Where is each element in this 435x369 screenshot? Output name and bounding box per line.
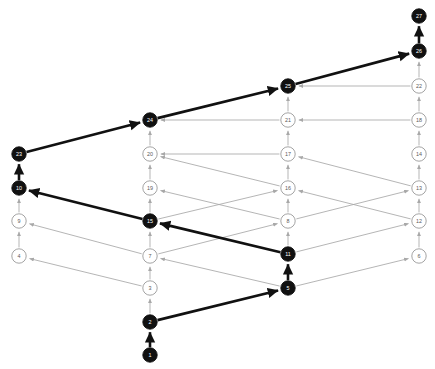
graph-node-3[interactable]: 3 xyxy=(143,281,157,295)
edge-13-to-17 xyxy=(298,157,410,186)
graph-node-12[interactable]: 12 xyxy=(412,214,426,228)
edge-2-to-5 xyxy=(158,290,279,320)
edge-5-to-6 xyxy=(296,259,408,286)
node-circle-7[interactable] xyxy=(143,249,157,263)
node-circle-17[interactable] xyxy=(281,147,295,161)
graph-node-22[interactable]: 22 xyxy=(412,79,426,93)
edge-7-to-9 xyxy=(29,224,141,254)
node-circle-15[interactable] xyxy=(143,214,157,228)
graph-node-19[interactable]: 19 xyxy=(143,181,157,195)
node-circle-8[interactable] xyxy=(281,214,295,228)
graph-node-26[interactable]: 26 xyxy=(412,44,426,58)
graph-node-9[interactable]: 9 xyxy=(12,214,26,228)
node-circle-20[interactable] xyxy=(143,147,157,161)
edge-5-to-7 xyxy=(161,258,280,286)
graph-node-5[interactable]: 5 xyxy=(281,281,295,295)
node-circle-10[interactable] xyxy=(12,181,26,195)
graph-svg: 1234567891011121314151617181920212223242… xyxy=(0,0,435,369)
edge-11-to-12 xyxy=(296,224,408,252)
graph-node-7[interactable]: 7 xyxy=(143,249,157,263)
node-circle-9[interactable] xyxy=(12,214,26,228)
node-circle-18[interactable] xyxy=(412,113,426,127)
node-circle-1[interactable] xyxy=(143,348,157,362)
node-layer: 1234567891011121314151617181920212223242… xyxy=(12,9,426,362)
edge-24-to-25 xyxy=(158,88,279,118)
node-circle-4[interactable] xyxy=(12,249,26,263)
node-circle-24[interactable] xyxy=(143,113,157,127)
node-circle-6[interactable] xyxy=(412,249,426,263)
graph-node-14[interactable]: 14 xyxy=(412,147,426,161)
graph-node-21[interactable]: 21 xyxy=(281,113,295,127)
edge-12-to-16 xyxy=(298,191,410,219)
node-circle-5[interactable] xyxy=(281,281,295,295)
graph-node-25[interactable]: 25 xyxy=(281,79,295,93)
graph-node-8[interactable]: 8 xyxy=(281,214,295,228)
graph-node-4[interactable]: 4 xyxy=(12,249,26,263)
node-circle-22[interactable] xyxy=(412,79,426,93)
graph-node-20[interactable]: 20 xyxy=(143,147,157,161)
node-circle-26[interactable] xyxy=(412,44,426,58)
node-circle-16[interactable] xyxy=(281,181,295,195)
edge-8-to-13 xyxy=(296,191,408,219)
node-circle-27[interactable] xyxy=(412,9,426,23)
edge-15-to-10 xyxy=(29,190,143,219)
graph-node-13[interactable]: 13 xyxy=(412,181,426,195)
graph-node-24[interactable]: 24 xyxy=(143,113,157,127)
graph-node-15[interactable]: 15 xyxy=(143,214,157,228)
node-circle-3[interactable] xyxy=(143,281,157,295)
edge-16-to-20 xyxy=(160,157,279,186)
edge-25-to-26 xyxy=(296,54,410,84)
graph-node-2[interactable]: 2 xyxy=(143,315,157,329)
edge-3-to-4 xyxy=(29,259,141,286)
graph-node-27[interactable]: 27 xyxy=(412,9,426,23)
edge-8-to-19 xyxy=(161,191,280,219)
graph-node-1[interactable]: 1 xyxy=(143,348,157,362)
graph-node-6[interactable]: 6 xyxy=(412,249,426,263)
node-circle-23[interactable] xyxy=(12,147,26,161)
node-circle-2[interactable] xyxy=(143,315,157,329)
graph-node-10[interactable]: 10 xyxy=(12,181,26,195)
graph-node-11[interactable]: 11 xyxy=(281,247,295,261)
graph-node-16[interactable]: 16 xyxy=(281,181,295,195)
node-circle-13[interactable] xyxy=(412,181,426,195)
node-circle-25[interactable] xyxy=(281,79,295,93)
graph-node-17[interactable]: 17 xyxy=(281,147,295,161)
graph-node-23[interactable]: 23 xyxy=(12,147,26,161)
node-circle-12[interactable] xyxy=(412,214,426,228)
diagram-canvas: 1234567891011121314151617181920212223242… xyxy=(0,0,435,369)
edge-layer xyxy=(19,26,419,347)
edge-23-to-24 xyxy=(27,123,141,152)
node-circle-11[interactable] xyxy=(281,247,295,261)
node-circle-19[interactable] xyxy=(143,181,157,195)
edge-15-to-16 xyxy=(158,191,277,219)
node-circle-14[interactable] xyxy=(412,147,426,161)
node-circle-21[interactable] xyxy=(281,113,295,127)
graph-node-18[interactable]: 18 xyxy=(412,113,426,127)
